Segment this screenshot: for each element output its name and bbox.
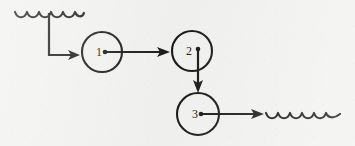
diagram-canvas: 1 2 3	[0, 0, 355, 146]
node-2-circle	[172, 31, 212, 71]
output-squiggle	[266, 113, 340, 118]
node-2[interactable]: 2	[172, 31, 212, 71]
node-3-label: 3	[192, 107, 198, 121]
edge-node-1-to-node-2	[103, 47, 170, 57]
output-squiggle-path	[266, 113, 340, 118]
node-2-label: 2	[186, 44, 192, 58]
flow-diagram: 1 2 3	[0, 0, 355, 146]
edge-input-to-node-1-path	[49, 13, 74, 55]
edge-input-to-node-1	[49, 13, 80, 60]
node-1-label: 1	[96, 45, 102, 59]
edge-node-3-to-output	[199, 109, 264, 119]
